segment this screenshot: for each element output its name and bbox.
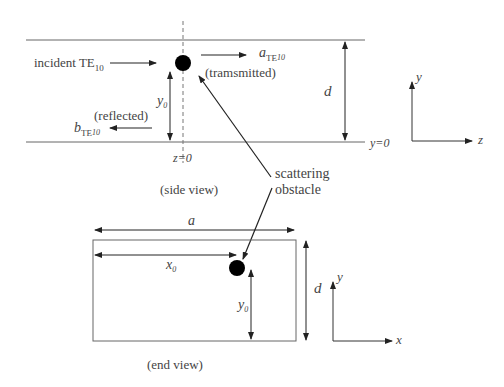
y0-label-end: y0 (238, 298, 248, 314)
y0-line-label: y=0 (370, 137, 389, 149)
end-view-caption: (end view) (147, 358, 203, 371)
side-view-caption: (side view) (160, 183, 218, 196)
transmitted-symbol: aTE10 (259, 46, 285, 63)
axis-y-label-side: y (416, 70, 422, 83)
d-label-side: d (324, 84, 332, 99)
z0-label: z=0 (173, 152, 192, 164)
y0-label-side: y0 (157, 94, 167, 110)
x0-label: x0 (166, 258, 176, 274)
d-label-end: d (314, 281, 322, 296)
obstacle-label-line2: obstacle (275, 183, 321, 197)
reflected-label: (reflected) (94, 109, 148, 122)
axis-y-label-end: y (337, 270, 343, 283)
incident-label: incident TE10 (34, 56, 104, 73)
obstacle-pointer-side (199, 76, 271, 177)
side-view (26, 21, 472, 163)
axis-z-label-side: z (478, 133, 483, 146)
transmitted-label: (tramsmitted) (205, 66, 276, 79)
obstacle-dot-side (175, 55, 191, 71)
obstacle-dot-end (229, 260, 245, 276)
end-view (93, 230, 392, 341)
reflected-symbol: bTE10 (74, 121, 100, 138)
obstacle-label-line1: scattering (275, 167, 329, 181)
a-label: a (188, 214, 195, 228)
axis-x-label-end: x (396, 333, 402, 346)
obstacle-pointer-end (243, 188, 272, 259)
